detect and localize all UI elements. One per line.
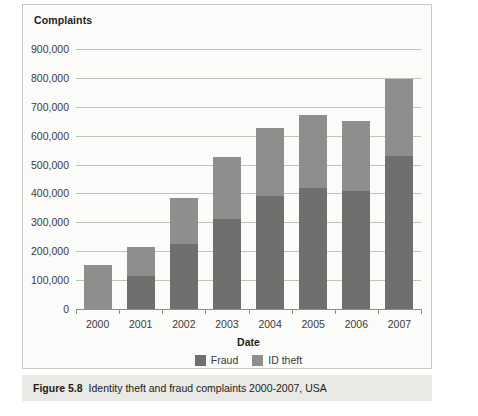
bar-segment-fraud [256,196,284,309]
chart-title: Complaints [34,14,92,26]
x-axis-tick [205,309,206,314]
bar-segment-fraud [342,191,370,309]
bar-segment-fraud [127,276,155,309]
bar-2004 [256,128,284,309]
x-axis-tick-label-2002: 2002 [172,318,195,330]
legend-label: ID theft [268,354,302,366]
legend-item-id-theft: ID theft [252,354,302,366]
bar-2005 [299,115,327,309]
x-axis-tick-label-2003: 2003 [215,318,238,330]
bar-segment-id-theft [213,157,241,219]
x-axis-tick [162,309,163,314]
x-axis-tick-label-2001: 2001 [129,318,152,330]
x-axis-tick [76,309,77,314]
bar-segment-id-theft [256,128,284,196]
x-axis-tick-label-2007: 2007 [388,318,411,330]
y-axis-tick-label: 500,000 [31,159,69,171]
bar-2006 [342,121,370,309]
bar-2000 [84,265,112,309]
figure-caption-number: Figure 5.8 [33,382,83,394]
bar-segment-id-theft [385,79,413,156]
legend-item-fraud: Fraud [195,354,238,366]
bar-segment-id-theft [84,265,112,309]
bar-segment-id-theft [127,247,155,276]
x-axis-tick-label-2004: 2004 [258,318,281,330]
bar-2003 [213,157,241,309]
y-axis-tick-label: 400,000 [31,187,69,199]
y-axis-tick-label: 300,000 [31,216,69,228]
bar-segment-id-theft [299,115,327,187]
x-axis-tick [335,309,336,314]
y-axis-tick-label: 0 [63,303,69,315]
x-axis-tick [378,309,379,314]
y-axis-tick-label: 900,000 [31,43,69,55]
bar-segment-fraud [385,156,413,309]
chart-legend: FraudID theft [76,354,421,366]
bar-segment-fraud [170,244,198,309]
gridline [76,49,421,50]
x-axis-tick-label-2006: 2006 [345,318,368,330]
bar-2007 [385,79,413,309]
x-axis-tick-label-2000: 2000 [86,318,109,330]
x-axis-title: Date [76,336,421,348]
x-axis-tick [421,309,422,314]
x-axis-tick [249,309,250,314]
legend-swatch-icon [195,355,206,366]
y-axis-tick-label: 800,000 [31,72,69,84]
bar-2001 [127,247,155,309]
bar-segment-id-theft [342,121,370,190]
x-axis-tick-label-2005: 2005 [302,318,325,330]
x-axis-tick [119,309,120,314]
y-axis-tick-label: 200,000 [31,245,69,257]
plot-area: 900,000800,000700,000600,000500,000400,0… [76,49,421,309]
bar-segment-id-theft [170,198,198,244]
bar-segment-fraud [213,219,241,309]
bar-segment-fraud [299,188,327,309]
legend-label: Fraud [211,354,238,366]
figure-caption-bar: Figure 5.8 Identity theft and fraud comp… [22,375,432,401]
y-axis-tick-label: 600,000 [31,130,69,142]
gridline [76,78,421,79]
y-axis-tick-label: 100,000 [31,274,69,286]
y-axis-tick-label: 700,000 [31,101,69,113]
chart-panel: Complaints 900,000800,000700,000600,0005… [22,4,432,369]
gridline [76,107,421,108]
figure-container: Complaints 900,000800,000700,000600,0005… [0,0,478,416]
bar-2002 [170,198,198,309]
figure-caption-text: Identity theft and fraud complaints 2000… [89,382,327,394]
legend-swatch-icon [252,355,263,366]
x-axis-tick [292,309,293,314]
